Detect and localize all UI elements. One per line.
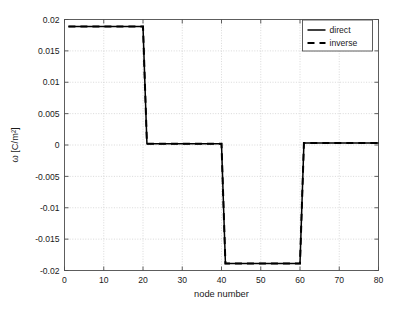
y-tick-label: 0.005 bbox=[38, 109, 60, 119]
y-tick-label: -0.02 bbox=[40, 266, 60, 276]
chart-legend[interactable]: directinverse bbox=[303, 20, 373, 51]
x-tick-label: 40 bbox=[217, 275, 227, 285]
x-tick-label: 30 bbox=[177, 275, 187, 285]
x-tick-label: 10 bbox=[99, 275, 109, 285]
x-tick-label: 70 bbox=[334, 275, 344, 285]
x-tick-label: 0 bbox=[62, 275, 67, 285]
chart-figure: 01020304050607080-0.02-0.015-0.01-0.0050… bbox=[0, 0, 396, 317]
y-tick-label: -0.015 bbox=[35, 234, 60, 244]
y-tick-label: 0.02 bbox=[43, 15, 60, 25]
y-tick-label: -0.01 bbox=[40, 203, 60, 213]
chart-canvas: 01020304050607080-0.02-0.015-0.01-0.0050… bbox=[0, 0, 396, 317]
y-tick-label: 0.01 bbox=[43, 77, 60, 87]
x-tick-label: 20 bbox=[138, 275, 148, 285]
y-axis-title: ω [C/m²] bbox=[10, 127, 20, 162]
x-tick-label: 60 bbox=[295, 275, 305, 285]
x-tick-label: 80 bbox=[374, 275, 384, 285]
x-tick-label: 50 bbox=[256, 275, 266, 285]
x-axis-title: node number bbox=[194, 289, 249, 299]
y-tick-label: 0.015 bbox=[38, 46, 60, 56]
legend-label-direct[interactable]: direct bbox=[330, 25, 352, 35]
y-tick-label: 0 bbox=[55, 140, 60, 150]
legend-label-inverse[interactable]: inverse bbox=[330, 38, 358, 48]
y-tick-label: -0.005 bbox=[35, 172, 60, 182]
